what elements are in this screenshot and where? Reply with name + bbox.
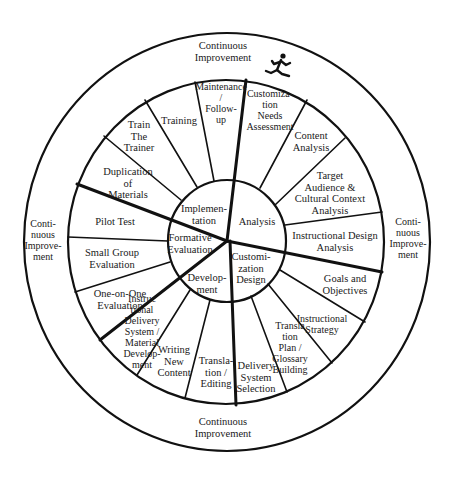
continuous-improvement-left: Conti- nuous Improve- ment — [24, 218, 61, 262]
continuous-improvement-bottom: Continuous Improvement — [195, 416, 252, 440]
phase-development: Develop- ment — [187, 272, 226, 295]
step-customization-needs-assessment: Customiza- tion Needs Assessment — [246, 88, 293, 132]
continuous-improvement-right: Conti- nuous Improve- ment — [389, 216, 426, 260]
step-writing-new-content: Writing New Content — [157, 344, 190, 379]
step-train-the-trainer: Train The Trainer — [124, 119, 155, 154]
step-small-group-evaluation: Small Group Evaluation — [85, 247, 139, 270]
phase-formative-evaluation: Formative Evaluation — [167, 232, 213, 255]
phase-analysis: Analysis — [239, 216, 276, 228]
step-training: Training — [161, 115, 197, 127]
step-one-on-one-evaluation: One-on-One Evaluation — [94, 288, 146, 311]
step-target-audience-analysis: Target Audience & Cultural Context Analy… — [295, 170, 365, 216]
continuous-improvement-top: Continuous Improvement — [195, 40, 252, 64]
step-maintenance-follow-up: Maintenance / Follow- up — [195, 81, 247, 125]
step-content-analysis: Content Analysis — [293, 130, 330, 153]
cycle-wheel — [0, 0, 451, 478]
phase-implementation: Implemen- tation — [181, 203, 227, 226]
step-translation-editing: Transla- tion / Editing — [199, 355, 234, 390]
step-pilot-test: Pilot Test — [95, 216, 135, 228]
step-delivery-system-selection: Delivery System Selection — [236, 360, 275, 395]
step-translation-plan-glossary: Transla tion Plan / Glossary Building — [272, 320, 308, 375]
step-duplication-of-materials: Duplication of Materials — [103, 166, 153, 201]
running-person-icon — [266, 53, 290, 76]
step-instructional-design-analysis: Instructional Design Analysis — [292, 230, 377, 253]
step-goals-and-objectives: Goals and Objectives — [323, 273, 368, 296]
phase-customization-design: Customi- zation Design — [231, 251, 270, 286]
